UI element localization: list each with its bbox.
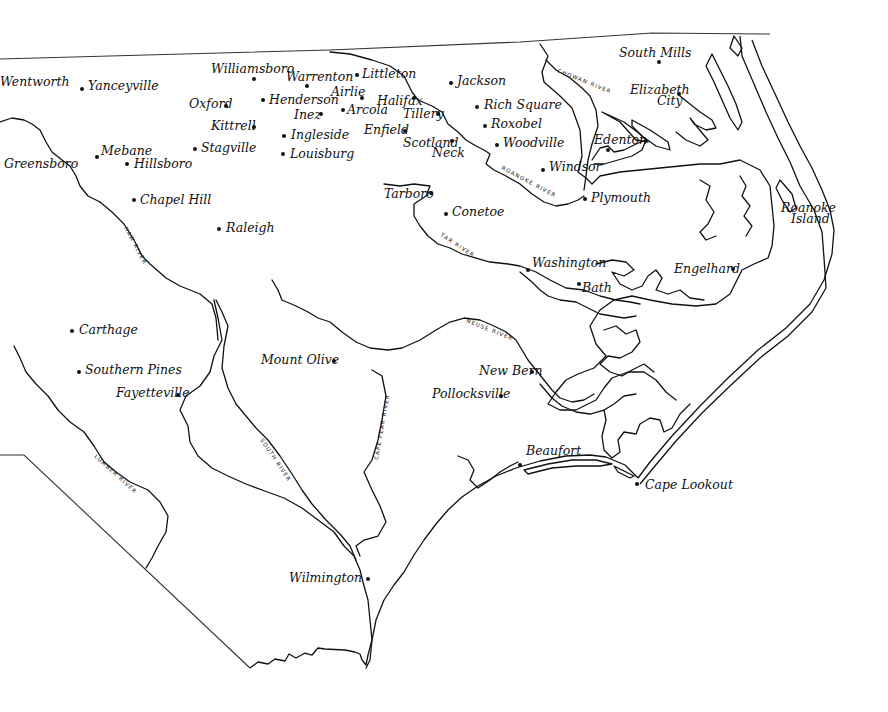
town-label-hillsboro: Hillsboro <box>133 156 192 171</box>
town-label-tillery: Tillery <box>403 106 445 121</box>
north-carolina-map: WentworthYanceyvilleWilliamsboroWarrento… <box>0 0 888 712</box>
haw-river <box>100 202 218 340</box>
town-label-yanceyville: Yanceyville <box>88 78 159 93</box>
town-label-new-bern: New Bern <box>478 363 543 378</box>
town-label-warrenton: Warrenton <box>286 69 353 84</box>
town-marker-rich-square <box>475 105 479 109</box>
town-marker-chapel-hill <box>132 198 136 202</box>
town-marker-louisburg <box>281 152 285 156</box>
town-label-woodville: Woodville <box>503 135 565 150</box>
town-marker-woodville <box>495 143 499 147</box>
town-marker-arcola <box>341 108 345 112</box>
town-marker-south-mills <box>657 60 661 64</box>
town-label-beaufort: Beaufort <box>525 443 582 458</box>
town-label-chapel-hill: Chapel Hill <box>140 192 211 207</box>
town-label-williamsboro: Williamsboro <box>211 61 294 76</box>
town-label-south-mills: South Mills <box>619 45 691 60</box>
town-label-inez: Inez <box>293 107 321 122</box>
pamlico-inlet-2 <box>740 176 752 236</box>
town-label-pollocksville: Pollocksville <box>431 386 510 401</box>
town-label-engelhard: Engelhard <box>673 261 740 276</box>
pamlico-inlet-1 <box>700 180 716 240</box>
town-marker-beaufort <box>518 463 522 467</box>
town-label-greensboro: Greensboro <box>4 156 78 171</box>
town-label-mount-olive: Mount Olive <box>260 352 339 367</box>
town-marker-washington <box>526 268 530 272</box>
town-marker-bath <box>577 282 581 286</box>
town-marker-wilmington <box>366 577 370 581</box>
town-label-washington: Washington <box>532 255 606 270</box>
town-marker-jackson <box>449 81 453 85</box>
town-label-windsor: Windsor <box>549 159 603 174</box>
town-label-jackson: Jackson <box>454 73 506 88</box>
town-label-edenton: Edenton <box>593 132 647 147</box>
town-label-wentworth: Wentworth <box>0 74 70 89</box>
town-marker-mebane <box>95 155 99 159</box>
town-marker-edenton <box>606 148 610 152</box>
town-marker-plymouth <box>583 197 587 201</box>
town-label-louisburg: Louisburg <box>289 146 354 161</box>
town-label-carthage: Carthage <box>79 322 138 337</box>
town-label-cape-lookout: Cape Lookout <box>645 477 734 492</box>
river-label-neuse-river: NEUSE RIVER <box>466 317 515 341</box>
town-label-plymouth: Plymouth <box>590 190 651 205</box>
lumber-river <box>14 346 168 568</box>
town-label-raleigh: Raleigh <box>225 220 275 235</box>
town-marker-hillsboro <box>125 162 129 166</box>
town-label-airlie: Airlie <box>330 84 365 99</box>
pamlico-south-shore <box>520 272 636 318</box>
neuse-river <box>272 280 594 402</box>
town-marker-stagville <box>193 147 197 151</box>
town-label-wilmington: Wilmington <box>289 570 362 585</box>
beaufort-inlet <box>458 456 518 488</box>
town-marker-southern-pines <box>77 370 81 374</box>
state-border-southwest <box>0 455 250 668</box>
town-layer: WentworthYanceyvilleWilliamsboroWarrento… <box>0 45 836 585</box>
town-label-littleton: Littleton <box>361 66 416 81</box>
town-marker-yanceyville <box>80 87 84 91</box>
town-label-oxford: Oxford <box>189 96 232 111</box>
town-marker-henderson <box>261 98 265 102</box>
town-marker-carthage <box>70 329 74 333</box>
town-label-southern-pines: Southern Pines <box>85 362 182 377</box>
northeast-cape-fear <box>356 370 386 556</box>
town-marker-conetoe <box>444 212 448 216</box>
town-marker-raleigh <box>217 227 221 231</box>
town-label-fayetteville: Fayetteville <box>115 385 190 400</box>
town-label-kittrell: Kittrell <box>210 118 256 133</box>
town-label-neck: Neck <box>431 145 465 160</box>
south-river <box>216 300 356 560</box>
town-marker-windsor <box>541 168 545 172</box>
town-label-conetoe: Conetoe <box>452 204 504 219</box>
town-marker-roxobel <box>483 124 487 128</box>
town-label-city: City <box>657 93 684 108</box>
town-marker-ingleside <box>282 134 286 138</box>
neuse-south-shore <box>540 384 636 414</box>
river-label-south-river: SOUTH RIVER <box>259 437 292 482</box>
town-label-stagville: Stagville <box>201 140 257 155</box>
currituck-inlet <box>706 54 742 130</box>
shackleford-banks <box>614 466 634 478</box>
town-label-bath: Bath <box>581 280 612 295</box>
river-label-haw-river: HAW RIVER <box>123 226 148 266</box>
river-label-lumber-river: LUMBER RIVER <box>93 453 138 494</box>
town-label-ingleside: Ingleside <box>290 127 349 142</box>
town-label-island: Island <box>790 211 830 226</box>
river-label-cape-fear-river: CAPE FEAR RIVER <box>373 394 390 461</box>
town-marker-cape-lookout <box>635 482 639 486</box>
town-label-rich-square: Rich Square <box>483 97 562 112</box>
town-label-tarboro: Tarboro <box>384 186 434 201</box>
town-marker-warrenton <box>305 84 309 88</box>
town-label-henderson: Henderson <box>268 92 339 107</box>
river-label-tar-river: TAR RIVER <box>439 231 476 258</box>
pamlico-sound-creeks <box>600 326 654 376</box>
town-marker-williamsboro <box>252 77 256 81</box>
town-marker-littleton <box>355 73 359 77</box>
town-label-roxobel: Roxobel <box>490 116 542 131</box>
